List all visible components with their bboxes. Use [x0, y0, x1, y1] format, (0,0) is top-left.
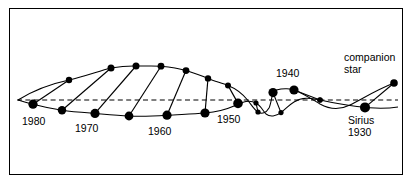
data-point-companion	[255, 109, 260, 114]
connector-line	[167, 71, 186, 116]
data-point-companion	[289, 85, 298, 94]
orbit-diagram-svg	[0, 0, 413, 185]
data-point-sirius	[200, 108, 209, 117]
connector-line	[205, 78, 208, 113]
label-companion-star-line1: companion	[344, 52, 395, 64]
data-point-sirius	[162, 111, 171, 120]
data-point-sirius	[28, 100, 37, 109]
connector-line	[95, 66, 136, 113]
label-year-1960: 1960	[148, 126, 171, 138]
label-year-1970: 1970	[75, 123, 98, 135]
data-point-sirius	[317, 97, 323, 103]
data-point-companion	[183, 67, 190, 74]
connector-line	[33, 80, 69, 104]
data-point-companion	[205, 75, 211, 81]
label-year-1950: 1950	[217, 114, 240, 126]
data-point-sirius	[125, 112, 134, 121]
connector-line	[129, 66, 161, 116]
data-point-sirius	[233, 99, 243, 109]
data-point-companion	[133, 63, 140, 70]
label-year-1930: 1930	[348, 127, 371, 139]
data-point-sirius	[360, 102, 370, 112]
label-companion-star-line2: star	[344, 64, 362, 76]
data-point-sirius	[90, 109, 99, 118]
data-point-sirius	[58, 106, 66, 114]
data-point-sirius	[253, 100, 258, 105]
figure-root: 1980 1970 1960 1950 1940 Sirius 1930 com…	[0, 0, 413, 185]
label-year-1980: 1980	[22, 116, 45, 128]
sirius-markers-group	[28, 97, 370, 120]
label-year-1940: 1940	[276, 68, 299, 80]
data-point-companion	[225, 82, 231, 88]
data-point-companion	[158, 63, 165, 70]
data-point-companion	[268, 88, 277, 97]
data-point-companion	[66, 77, 72, 83]
data-point-sirius	[278, 110, 283, 115]
label-sirius: Sirius	[348, 115, 374, 127]
data-point-companion	[108, 65, 115, 72]
data-point-companion	[390, 79, 398, 87]
